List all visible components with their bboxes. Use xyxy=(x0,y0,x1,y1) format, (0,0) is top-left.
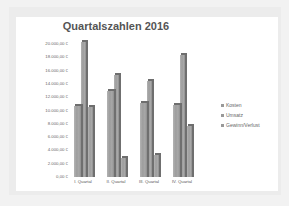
legend-item: Gewinn/Verlust xyxy=(221,122,260,128)
y-tick-label: 0,00 € xyxy=(16,174,68,179)
bar-kosten xyxy=(74,106,83,177)
y-tick-label: 20.000,00 € xyxy=(16,41,68,46)
legend-swatch-icon xyxy=(221,104,224,107)
bar-gewinn-verlust xyxy=(88,107,95,177)
y-tick-label: 10.000,00 € xyxy=(16,108,68,113)
y-tick-label: 16.000,00 € xyxy=(16,68,68,73)
bar-kosten xyxy=(107,91,116,177)
legend-item: Umsatz xyxy=(221,112,260,118)
plot-area xyxy=(72,44,204,177)
x-tick-label: III. Quartal xyxy=(134,179,164,184)
y-tick-label: 4.000,00 € xyxy=(16,147,68,152)
legend: KostenUmsatzGewinn/Verlust xyxy=(221,102,260,132)
legend-label: Kosten xyxy=(226,102,242,108)
x-tick-label: II. Quartal xyxy=(101,179,131,184)
legend-swatch-icon xyxy=(221,114,224,117)
bar-kosten xyxy=(140,103,149,177)
y-tick-label: 2.000,00 € xyxy=(16,161,68,166)
y-tick-label: 14.000,00 € xyxy=(16,81,68,86)
bar-kosten xyxy=(173,105,182,177)
chart-title: Quartalszahlen 2016 xyxy=(16,20,216,32)
x-tick-label: IV. Quartal xyxy=(167,179,197,184)
y-tick-label: 18.000,00 € xyxy=(16,54,68,59)
bar-gewinn-verlust xyxy=(187,126,194,177)
legend-label: Gewinn/Verlust xyxy=(226,122,260,128)
bar-gewinn-verlust xyxy=(154,155,161,177)
y-tick-label: 6.000,00 € xyxy=(16,134,68,139)
y-tick-label: 12.000,00 € xyxy=(16,94,68,99)
x-tick-label: I. Quartal xyxy=(68,179,98,184)
bar-gewinn-verlust xyxy=(121,158,128,177)
chart-area: Quartalszahlen 2016 20.000,00 €18.000,00… xyxy=(16,17,278,191)
legend-label: Umsatz xyxy=(226,112,243,118)
y-tick-label: 8.000,00 € xyxy=(16,121,68,126)
legend-swatch-icon xyxy=(221,124,224,127)
legend-item: Kosten xyxy=(221,102,260,108)
